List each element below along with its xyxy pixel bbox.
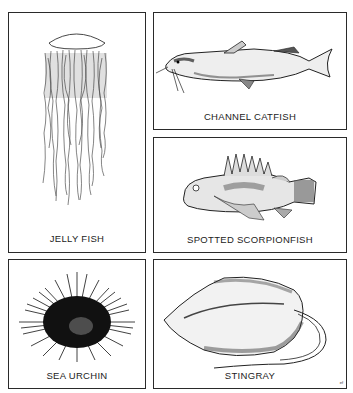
caption-spotted-scorpionfish: SPOTTED SCORPIONFISH xyxy=(154,234,346,245)
catfish-illustration xyxy=(154,13,346,108)
panel-sea-urchin: SEA URCHIN xyxy=(8,259,146,389)
caption-channel-catfish: CHANNEL CATFISH xyxy=(154,111,346,122)
scorpionfish-illustration xyxy=(154,138,346,233)
panel-channel-catfish: CHANNEL CATFISH xyxy=(153,12,347,130)
panel-jelly-fish: JELLY FISH xyxy=(8,12,146,253)
panel-stingray: STINGRAY ef xyxy=(153,259,347,389)
artist-signature: ef xyxy=(340,380,343,385)
caption-stingray: STINGRAY xyxy=(154,370,346,381)
caption-sea-urchin: SEA URCHIN xyxy=(9,370,145,381)
stingray-illustration xyxy=(154,260,346,370)
sea-urchin-illustration xyxy=(9,260,144,370)
caption-jelly-fish: JELLY FISH xyxy=(9,233,145,244)
panel-spotted-scorpionfish: SPOTTED SCORPIONFISH xyxy=(153,137,347,253)
jellyfish-illustration xyxy=(9,13,144,228)
